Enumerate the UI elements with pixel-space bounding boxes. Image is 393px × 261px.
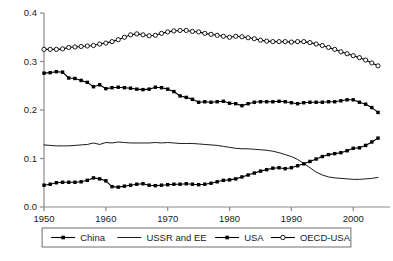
series-marker bbox=[197, 30, 201, 34]
x-tick-label: 2000 bbox=[343, 213, 364, 224]
series-marker bbox=[327, 100, 330, 103]
series-marker bbox=[234, 34, 238, 38]
series-marker bbox=[345, 98, 348, 101]
legend-marker bbox=[61, 236, 65, 240]
x-tick-label: 1980 bbox=[219, 213, 240, 224]
series-marker bbox=[284, 100, 287, 103]
series-marker bbox=[61, 181, 64, 184]
series-marker bbox=[92, 85, 95, 88]
x-axis: 195019601970198019902000 bbox=[33, 207, 390, 224]
x-tick-label: 1970 bbox=[157, 213, 178, 224]
legend-label: China bbox=[80, 232, 106, 243]
series-marker bbox=[265, 39, 269, 43]
series-marker bbox=[172, 90, 175, 93]
series-marker bbox=[128, 33, 132, 37]
legend-label: USSR and EE bbox=[146, 232, 206, 243]
series-marker bbox=[104, 179, 107, 182]
series-marker bbox=[79, 44, 83, 48]
series-marker bbox=[321, 101, 324, 104]
series-marker bbox=[123, 86, 126, 89]
series-line-ussr-and-ee bbox=[44, 142, 378, 179]
series-marker bbox=[370, 106, 373, 109]
series-marker bbox=[110, 40, 114, 44]
series-marker bbox=[160, 183, 163, 186]
series-marker bbox=[339, 151, 342, 154]
series-marker bbox=[246, 36, 250, 40]
series-marker bbox=[333, 152, 336, 155]
series-marker bbox=[67, 76, 70, 79]
series-marker bbox=[42, 183, 45, 186]
series-marker bbox=[252, 37, 256, 41]
series-marker bbox=[308, 101, 311, 104]
series-marker bbox=[85, 44, 89, 48]
series-marker bbox=[258, 38, 262, 42]
series-marker bbox=[370, 61, 374, 65]
legend-label: OECD-USA bbox=[300, 232, 351, 243]
series-marker bbox=[172, 183, 175, 186]
series-marker bbox=[178, 183, 181, 186]
series-layer bbox=[42, 28, 380, 188]
series-marker bbox=[117, 86, 120, 89]
series-marker bbox=[308, 160, 311, 163]
series-marker bbox=[203, 100, 206, 103]
series-marker bbox=[308, 40, 312, 44]
series-marker bbox=[351, 54, 355, 58]
series-marker bbox=[326, 45, 330, 49]
series-marker bbox=[376, 136, 379, 139]
series-marker bbox=[364, 58, 368, 62]
series-marker bbox=[357, 56, 361, 60]
series-marker bbox=[370, 140, 373, 143]
series-marker bbox=[203, 183, 206, 186]
legend-marker bbox=[225, 236, 229, 240]
y-tick-label: 0.4 bbox=[24, 7, 37, 18]
series-marker bbox=[228, 102, 231, 105]
series-marker bbox=[246, 102, 249, 105]
series-marker bbox=[190, 29, 194, 33]
series-marker bbox=[333, 47, 337, 51]
y-tick-label: 0.3 bbox=[24, 56, 37, 67]
series-marker bbox=[185, 96, 188, 99]
series-marker bbox=[61, 70, 64, 73]
series-marker bbox=[339, 99, 342, 102]
series-marker bbox=[42, 71, 45, 74]
series-marker bbox=[185, 182, 188, 185]
series-marker bbox=[314, 157, 317, 160]
series-marker bbox=[253, 171, 256, 174]
series-marker bbox=[191, 183, 194, 186]
y-tick-label: 0.1 bbox=[24, 153, 37, 164]
series-marker bbox=[153, 33, 157, 37]
legend-label: USA bbox=[244, 232, 264, 243]
series-marker bbox=[259, 169, 262, 172]
series-marker bbox=[265, 168, 268, 171]
series-marker bbox=[271, 40, 275, 44]
y-tick-label: 0.2 bbox=[24, 104, 37, 115]
series-marker bbox=[209, 32, 213, 36]
series-marker bbox=[376, 111, 379, 114]
series-marker bbox=[209, 101, 212, 104]
series-marker bbox=[246, 173, 249, 176]
series-marker bbox=[358, 146, 361, 149]
series-marker bbox=[184, 28, 188, 32]
series-marker bbox=[154, 184, 157, 187]
series-marker bbox=[48, 71, 51, 74]
series-marker bbox=[191, 98, 194, 101]
series-marker bbox=[172, 29, 176, 33]
series-marker bbox=[221, 34, 225, 38]
series-marker bbox=[86, 179, 89, 182]
series-marker bbox=[48, 183, 51, 186]
series-marker bbox=[364, 102, 367, 105]
series-marker bbox=[376, 64, 380, 68]
series-marker bbox=[98, 83, 101, 86]
chart-legend: ChinaUSSR and EEUSAOECD-USA bbox=[42, 228, 351, 247]
series-marker bbox=[129, 86, 132, 89]
series-marker bbox=[147, 87, 150, 90]
series-marker bbox=[92, 176, 95, 179]
series-marker bbox=[159, 31, 163, 35]
series-marker bbox=[135, 32, 139, 36]
series-marker bbox=[73, 45, 77, 49]
series-marker bbox=[240, 104, 243, 107]
series-marker bbox=[166, 87, 169, 90]
series-marker bbox=[166, 183, 169, 186]
series-marker bbox=[302, 40, 306, 44]
series-marker bbox=[321, 155, 324, 158]
